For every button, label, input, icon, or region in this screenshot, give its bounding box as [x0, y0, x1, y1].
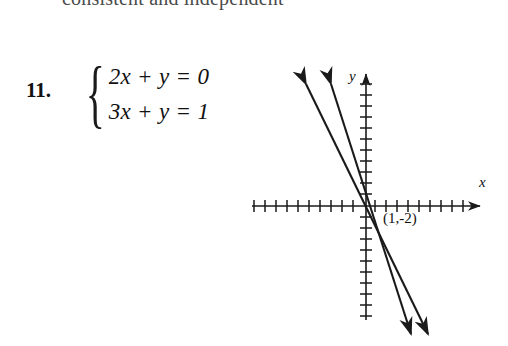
system-brace: {	[86, 60, 105, 129]
section-heading: consistent and independent	[62, 0, 284, 10]
x-axis-label: x	[479, 174, 486, 191]
equation-list: 2x + y = 0 3x + y = 1	[109, 64, 209, 125]
problem-number: 11.	[26, 78, 51, 103]
worksheet-page: consistent and independent 11. { 2x + y …	[0, 0, 508, 346]
line-2x-plus-y-equals-0	[306, 84, 428, 334]
equation-system: { 2x + y = 0 3x + y = 1	[80, 64, 209, 125]
solution-point-label: (1,-2)	[383, 210, 417, 227]
coordinate-graph	[228, 58, 508, 346]
equation-first: 2x + y = 0	[109, 64, 209, 90]
equation-second: 3x + y = 1	[109, 99, 209, 125]
line-3x-plus-y-equals-1	[331, 84, 411, 334]
y-axis-label: y	[349, 68, 356, 85]
graph-svg	[228, 58, 508, 346]
